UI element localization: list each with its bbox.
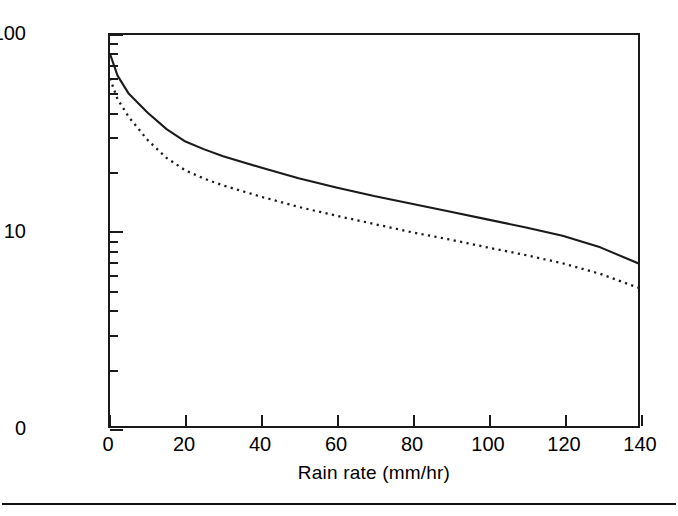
- plot-area: [108, 33, 640, 428]
- x-axis-tick-label: 100: [448, 434, 528, 454]
- series-dotted-curve: [110, 78, 638, 287]
- x-axis-tick-label: 140: [600, 434, 678, 454]
- x-axis-tick-label: 60: [296, 434, 376, 454]
- y-axis-tick-label: 0: [0, 418, 26, 438]
- x-axis-tick-label: 0: [68, 434, 148, 454]
- y-axis-tick-label: 100: [0, 23, 26, 43]
- x-axis-tick-label: 20: [144, 434, 224, 454]
- y-axis-tick-label: 10: [0, 221, 26, 241]
- x-axis-tick-label: 40: [220, 434, 300, 454]
- x-axis-tick-label: 120: [524, 434, 604, 454]
- y-axis-major-tick: [110, 429, 123, 431]
- series-solid-curve: [110, 54, 638, 263]
- data-curves: [110, 35, 638, 426]
- x-axis-tick-label: 80: [372, 434, 452, 454]
- x-axis-major-tick: [641, 415, 643, 426]
- figure-container: Range (km) 100100 020406080100120140 Rai…: [0, 0, 678, 516]
- bottom-separator-rule: [2, 503, 676, 505]
- x-axis-title: Rain rate (mm/hr): [108, 462, 640, 484]
